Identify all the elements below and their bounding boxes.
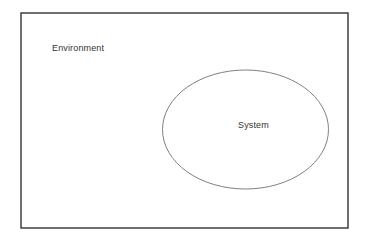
diagram-graphics	[0, 0, 367, 241]
diagram-canvas: Environment System	[0, 0, 367, 241]
system-label: System	[238, 120, 269, 131]
environment-label: Environment	[52, 43, 104, 54]
